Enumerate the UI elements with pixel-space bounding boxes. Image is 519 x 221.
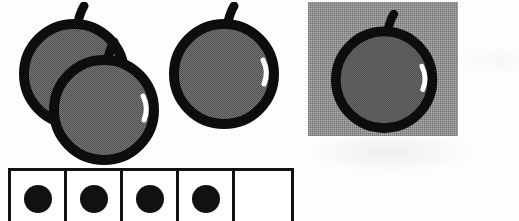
counting-grid	[8, 168, 294, 221]
count-dot-icon	[192, 185, 220, 213]
counting-cell[interactable]	[179, 171, 235, 221]
count-dot-icon	[80, 185, 108, 213]
count-dot-icon	[24, 185, 52, 213]
apple-icon	[48, 38, 168, 168]
apple-icon	[330, 10, 446, 136]
count-dot-placeholder	[249, 185, 277, 213]
worksheet-page: Scanned black-and-white worksheet illust…	[0, 0, 519, 221]
counting-cell[interactable]	[123, 171, 179, 221]
counting-cell-empty[interactable]	[235, 171, 291, 221]
count-dot-icon	[136, 185, 164, 213]
counting-cell[interactable]	[11, 171, 67, 221]
apple-icon	[168, 2, 288, 132]
worksheet-description: Scanned black-and-white worksheet illust…	[0, 0, 1, 1]
counting-cell[interactable]	[67, 171, 123, 221]
